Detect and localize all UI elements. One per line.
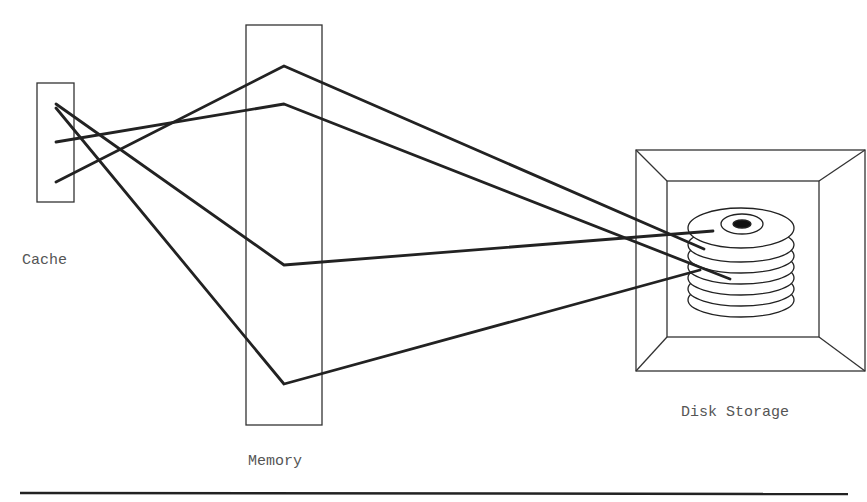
cache-label: Cache: [22, 252, 67, 269]
path-cache-memory-disk-1: [56, 66, 704, 249]
disk-storage-label: Disk Storage: [681, 404, 789, 421]
path-cache-memory-disk-4: [56, 108, 700, 384]
data-paths: [56, 66, 730, 384]
disk-stack-icon: [688, 208, 794, 317]
memory-box: [246, 25, 322, 425]
memory-label: Memory: [248, 453, 302, 470]
path-cache-memory-disk-3: [56, 104, 713, 265]
bottom-rule: [20, 493, 848, 494]
memory-hierarchy-diagram: [0, 0, 867, 502]
